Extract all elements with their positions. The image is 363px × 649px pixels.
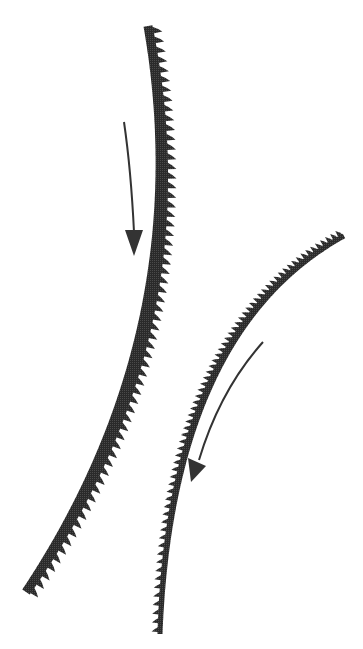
tooth: [173, 460, 181, 465]
large-toothed-band: [22, 25, 176, 597]
tooth: [170, 474, 178, 479]
tooth: [154, 575, 161, 580]
tooth: [152, 627, 159, 632]
tooth: [158, 285, 167, 293]
tooth: [152, 618, 159, 623]
tooth: [152, 609, 159, 614]
tooth: [163, 95, 173, 102]
tooth: [167, 182, 176, 189]
arrow-down-icon: [124, 122, 143, 256]
tooth: [155, 567, 162, 572]
tooth: [167, 191, 176, 198]
tooth: [165, 496, 172, 501]
tooth: [167, 488, 174, 493]
tooth: [167, 201, 176, 208]
tooth: [162, 85, 172, 92]
tooth: [153, 601, 160, 606]
tooth: [153, 592, 160, 597]
tooth: [161, 267, 170, 275]
tooth: [167, 163, 176, 170]
band-body: [22, 25, 168, 594]
tooth: [161, 76, 171, 83]
diagram-canvas: [0, 0, 363, 649]
tooth: [163, 248, 172, 256]
tooth: [168, 172, 177, 179]
tooth: [167, 143, 176, 150]
meshing-racks-diagram: [0, 0, 363, 649]
tooth: [155, 304, 164, 312]
tooth: [161, 519, 168, 524]
tooth: [160, 276, 169, 284]
tooth: [164, 105, 174, 112]
tooth: [168, 481, 176, 486]
tooth: [154, 37, 164, 44]
tooth: [165, 114, 175, 121]
tooth: [166, 124, 175, 131]
tooth: [164, 503, 171, 508]
tooth: [162, 511, 169, 516]
tooth: [156, 294, 165, 302]
tooth: [159, 534, 166, 539]
tooth: [156, 558, 163, 563]
tooth: [167, 153, 176, 160]
tooth: [157, 550, 164, 555]
tooth: [166, 220, 175, 227]
tooth: [154, 583, 161, 588]
tooth: [158, 56, 168, 63]
tooth: [151, 322, 160, 330]
tooth: [152, 27, 162, 34]
tooth: [160, 526, 167, 531]
tooth: [165, 229, 174, 236]
tooth: [159, 66, 169, 73]
tooth: [171, 467, 179, 472]
tooth: [162, 257, 171, 265]
tooth: [164, 238, 173, 245]
small-toothed-band: [152, 231, 346, 634]
tooth: [146, 341, 155, 350]
tooth: [166, 210, 175, 217]
tooth: [158, 542, 165, 547]
tooth: [166, 134, 175, 141]
tooth: [148, 331, 157, 339]
tooth: [153, 313, 162, 321]
tooth: [156, 46, 166, 53]
